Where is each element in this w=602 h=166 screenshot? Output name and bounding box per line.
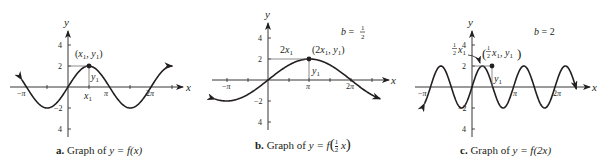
svg-text:2: 2 <box>361 33 365 41</box>
segment-y1: y1 <box>90 71 99 84</box>
caption-text: Graph of <box>267 139 309 151</box>
svg-text:4: 4 <box>58 125 62 134</box>
x-axis-label: x <box>185 81 191 93</box>
caption-equation: y = f <box>309 139 330 151</box>
caption-b: b. Graph of y = f(12 x) <box>255 136 351 154</box>
horizontal-label-2x1: 2x1 <box>280 44 293 57</box>
x-tick-neg-pi: −π <box>17 89 27 98</box>
point-label: ( 1 2 x1, y1 ) <box>482 45 521 61</box>
caption-fraction: 12 <box>335 139 339 154</box>
pointer-arrow <box>468 55 480 63</box>
caption-a: a. Graph of y = f(x) <box>56 144 142 156</box>
y-axis-label: y <box>264 8 270 20</box>
svg-text:4: 4 <box>58 41 62 50</box>
svg-text:2: 2 <box>462 62 466 71</box>
svg-text:−2: −2 <box>54 104 63 113</box>
y-axis-label: y <box>63 16 69 28</box>
caption-text: Graph of <box>470 144 512 156</box>
y-tick-labels: 4 2 −2 4 <box>54 41 63 134</box>
svg-text:−2: −2 <box>458 104 467 113</box>
svg-text:4: 4 <box>258 118 262 127</box>
y-tick-labels: 4 2 −2 4 <box>254 34 263 127</box>
caption-equation: y = f(x) <box>109 144 142 156</box>
graph-a: y x 4 2 −2 4 −π x1 π 2π y1 (x1, y1) <box>10 16 191 137</box>
x-tick-neg-pi: −π <box>418 89 428 98</box>
svg-text:2: 2 <box>453 50 456 56</box>
caption-c: c. Graph of y = f(2x) <box>460 144 551 156</box>
svg-text:(: ( <box>482 46 486 61</box>
caption-equation: y = f(2x) <box>513 144 552 156</box>
caption-text: Graph of <box>67 144 109 156</box>
graph-c: y x 4 2 −2 4 −π π 2π y1 1 2 x1 ( 1 2 x1,… <box>415 16 597 137</box>
svg-text:2: 2 <box>258 55 262 64</box>
svg-text:1: 1 <box>487 45 490 51</box>
svg-text:1: 1 <box>453 42 456 48</box>
x-tick-2pi: 2π <box>146 89 155 98</box>
svg-text:2: 2 <box>487 53 490 59</box>
x-tick-2pi: 2π <box>553 89 562 98</box>
point-label: (x1, y1) <box>75 48 103 61</box>
svg-text:x1, y1: x1, y1 <box>491 47 513 60</box>
segment-y1: y1 <box>493 73 502 86</box>
caption-letter: c. <box>460 144 468 156</box>
svg-text:−2: −2 <box>254 97 263 106</box>
point-x1-y1 <box>87 64 92 69</box>
point-label: (2x1, y1) <box>312 44 345 57</box>
x-tick-pi: π <box>306 82 311 91</box>
svg-text:): ) <box>517 46 521 61</box>
y-axis-label: y <box>467 16 473 28</box>
graph-b: y x 4 2 −2 4 −π π 2π 2x1 (2x1, y1) y1 b … <box>212 8 396 130</box>
point-half-x1-y1 <box>490 64 495 69</box>
svg-text:2: 2 <box>58 62 62 71</box>
svg-text:4: 4 <box>462 125 466 134</box>
caption-letter: a. <box>56 144 64 156</box>
x-tick-pi: π <box>104 89 109 98</box>
x-tick-x1: x1 <box>83 90 92 103</box>
x-tick-2pi: 2π <box>346 82 355 91</box>
segment-y1: y1 <box>311 65 320 78</box>
x-axis-label: x <box>390 74 396 86</box>
x-tick-pi: π <box>513 89 518 98</box>
svg-text:b =: b = <box>341 26 355 37</box>
caption-letter: b. <box>255 139 264 151</box>
x-tick-neg-pi: −π <box>222 82 232 91</box>
b-value-label: b = 1 2 <box>341 24 365 41</box>
svg-text:1: 1 <box>361 24 365 32</box>
svg-text:4: 4 <box>258 34 262 43</box>
point-2x1-y1 <box>307 57 312 62</box>
b-value-label: b = 2 <box>534 26 555 37</box>
x-axis-label: x <box>591 81 597 93</box>
